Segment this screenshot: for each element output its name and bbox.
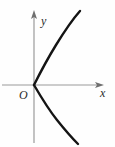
x-axis-label: x [99, 86, 106, 100]
origin-label: O [19, 88, 28, 102]
parabola-lower-branch [34, 85, 78, 144]
coordinate-plot: y x O [0, 0, 115, 147]
y-axis-label: y [40, 14, 47, 28]
parabola-figure: y x O [0, 0, 115, 147]
